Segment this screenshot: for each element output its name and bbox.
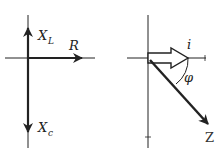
right-diagram: i φ Z <box>127 15 214 148</box>
left-diagram: X L R X c <box>5 15 95 148</box>
phi-label: φ <box>184 70 194 85</box>
xl-label: X <box>37 28 48 43</box>
xl-subscript: L <box>47 36 54 46</box>
xc-label: X <box>37 120 48 135</box>
diagram-canvas: X L R X c i φ Z <box>0 0 221 154</box>
xc-subscript: c <box>48 128 53 138</box>
r-label: R <box>68 38 79 53</box>
z-label: Z <box>205 130 214 145</box>
z-arrow <box>150 60 208 124</box>
i-label: i <box>187 37 191 52</box>
